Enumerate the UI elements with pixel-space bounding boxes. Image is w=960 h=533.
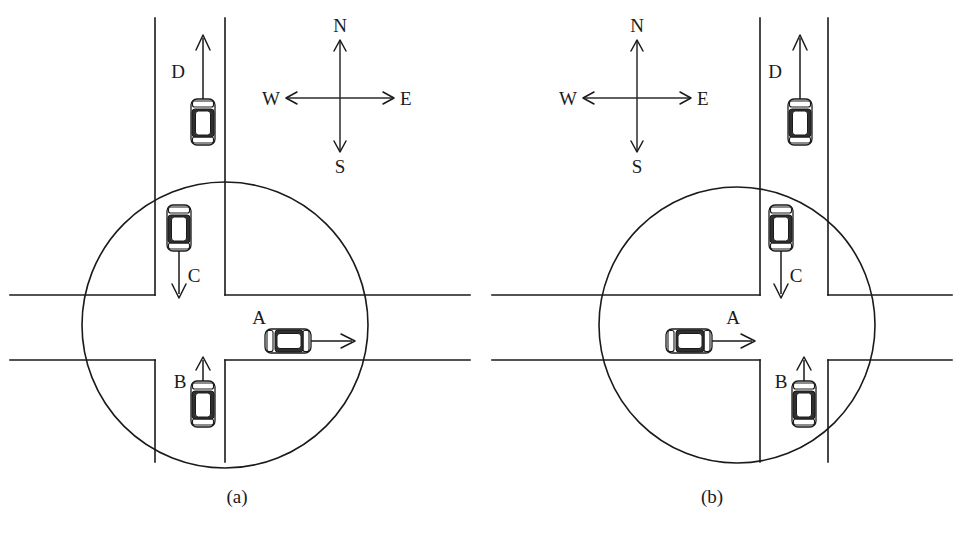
vehicle-c-label: C <box>188 265 201 286</box>
panel-a: N S W E D <box>10 15 470 508</box>
compass-label-west: W <box>262 88 280 109</box>
vehicle-b-group-b: B <box>775 357 816 427</box>
vehicle-d <box>191 99 215 145</box>
vehicle-c <box>167 205 191 251</box>
compass-label-east-b: E <box>697 88 709 109</box>
vehicle-b <box>191 381 215 427</box>
vehicle-b-b <box>792 381 816 427</box>
vehicle-d-label-b: D <box>768 61 782 82</box>
vehicle-d-b <box>788 99 812 145</box>
compass-label-north: N <box>333 15 347 36</box>
vehicle-a <box>265 329 311 353</box>
vehicle-d-group-a: D <box>171 35 215 145</box>
compass-label-south: S <box>335 156 346 177</box>
intersection-figure: N S W E D <box>0 0 960 533</box>
vehicle-c-label-b: C <box>790 265 803 286</box>
vehicle-d-group-b: D <box>768 35 812 145</box>
vehicle-c-b <box>769 205 793 251</box>
vehicle-d-label: D <box>171 61 185 82</box>
compass-label-east: E <box>400 88 412 109</box>
panel-b-caption: (b) <box>701 486 723 508</box>
compass-label-south-b: S <box>632 156 643 177</box>
compass-rose-b: N S W E <box>559 15 709 177</box>
vehicle-a-b <box>666 329 712 353</box>
vehicle-a-group-b: A <box>666 307 755 353</box>
vehicle-b-label: B <box>174 371 187 392</box>
vehicle-c-group-b: C <box>769 205 802 298</box>
panel-b-roads <box>492 18 952 462</box>
vehicle-b-group-a: B <box>174 357 215 427</box>
vehicle-a-label: A <box>252 307 266 328</box>
panel-b: N S W E D <box>492 15 952 508</box>
panel-a-caption: (a) <box>226 486 247 508</box>
vehicle-a-group-a: A <box>252 307 355 353</box>
compass-rose-a: N S W E <box>262 15 412 177</box>
vehicle-b-label-b: B <box>775 371 788 392</box>
compass-label-north-b: N <box>630 15 644 36</box>
compass-label-west-b: W <box>559 88 577 109</box>
panel-a-roads <box>10 18 470 462</box>
vehicle-c-group-a: C <box>167 205 200 298</box>
vehicle-a-label-b: A <box>726 307 740 328</box>
figure-root: N S W E D <box>0 0 960 533</box>
